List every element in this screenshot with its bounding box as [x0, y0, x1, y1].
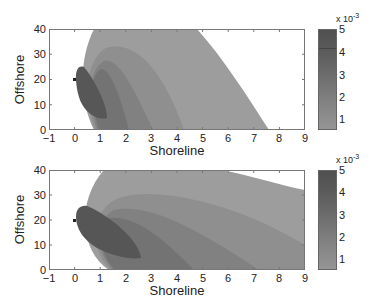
- bottom-cbar-tick: 5: [339, 165, 345, 176]
- bottom-cbar-tick: 4: [339, 187, 345, 198]
- bottom-contour-svg: [49, 170, 305, 270]
- bottom-ytick: 20: [26, 215, 46, 226]
- bottom-y-axis-label: Offshore: [12, 180, 27, 260]
- bottom-xtick: −1: [39, 273, 59, 284]
- bottom-xtick: 9: [295, 273, 315, 284]
- bottom-ytick: 40: [26, 165, 46, 176]
- bottom-xtick: 8: [269, 273, 289, 284]
- bottom-ytick: 10: [26, 240, 46, 251]
- bottom-colorbar: [318, 170, 337, 270]
- bottom-cbar-tick: 3: [339, 210, 345, 221]
- bottom-contour-plot: [49, 170, 305, 270]
- bottom-cbar-tick: 1: [339, 254, 345, 265]
- bottom-xtick: 1: [90, 273, 110, 284]
- bottom-panel: 40 30 20 10 0 −1 0 1 2 3 4 5 6 7 8 9 Sho…: [0, 0, 379, 150]
- bottom-cbar-tick: 2: [339, 232, 345, 243]
- bottom-xtick: 7: [244, 273, 264, 284]
- bottom-xtick: 0: [65, 273, 85, 284]
- bottom-ytick: 30: [26, 190, 46, 201]
- bottom-x-axis-label: Shoreline: [117, 283, 237, 298]
- source-marker: [73, 219, 76, 222]
